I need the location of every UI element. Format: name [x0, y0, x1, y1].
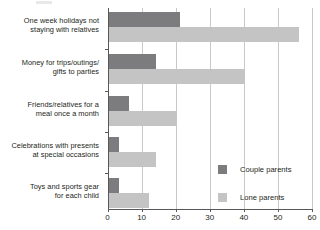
bar-2-couple-parents	[109, 96, 129, 111]
legend-item-lone-parents: Lone parents	[218, 191, 284, 204]
category-label-4-line1: Toys and sports gear	[30, 182, 99, 191]
x-tick-20	[176, 209, 177, 212]
y-tick-3	[105, 132, 108, 133]
bar-3-lone-parents	[109, 152, 157, 167]
chart-legend: Couple parents Lone parents	[218, 163, 314, 205]
legend-label-lone-parents: Lone parents	[240, 193, 284, 202]
top-artifact	[36, 1, 52, 4]
bar-0-lone-parents	[109, 27, 300, 42]
category-label-2: Friends/relatives for a meal once a mont…	[0, 100, 99, 119]
category-label-1-line1: Money for trips/outings/	[22, 58, 99, 67]
bar-2-lone-parents	[109, 111, 177, 126]
category-label-0-line2: staying with relatives	[30, 25, 99, 34]
y-tick-1	[105, 49, 108, 50]
x-axis-tick-labels: 0102030405060	[108, 213, 320, 225]
x-tick-10	[142, 209, 143, 212]
legend-label-couple-parents: Couple parents	[240, 165, 292, 174]
x-tick-label-60: 60	[308, 213, 317, 223]
x-tick-0	[108, 209, 109, 212]
category-label-3-line1: Celebrations with presents	[11, 141, 99, 150]
x-tick-30	[210, 209, 211, 212]
x-tick-50	[278, 209, 279, 212]
category-label-0: One week holidays not staying with relat…	[0, 16, 99, 35]
x-tick-label-30: 30	[205, 213, 214, 223]
legend-item-couple-parents: Couple parents	[218, 163, 292, 176]
bar-chart: One week holidays not staying with relat…	[0, 0, 319, 230]
legend-swatch-couple-parents	[218, 165, 227, 174]
category-label-3: Celebrations with presents at special oc…	[0, 141, 99, 160]
x-tick-40	[244, 209, 245, 212]
bar-1-lone-parents	[109, 69, 245, 84]
y-tick-2	[105, 91, 108, 92]
bar-0-couple-parents	[109, 12, 181, 27]
category-label-3-line2: at special occasions	[32, 150, 99, 159]
category-label-2-line2: meal once a month	[36, 109, 99, 118]
legend-swatch-lone-parents	[218, 193, 227, 202]
x-tick-label-10: 10	[137, 213, 146, 223]
x-tick-label-0: 0	[105, 213, 109, 223]
category-label-4-line2: for each child	[55, 191, 99, 200]
bar-3-couple-parents	[109, 137, 119, 152]
bar-4-lone-parents	[109, 193, 150, 208]
x-tick-label-20: 20	[171, 213, 180, 223]
category-label-0-line1: One week holidays not	[24, 16, 99, 25]
y-tick-4	[105, 173, 108, 174]
x-tick-label-40: 40	[239, 213, 248, 223]
category-label-2-line1: Friends/relatives for a	[27, 100, 99, 109]
bar-4-couple-parents	[109, 178, 119, 193]
x-tick-label-50: 50	[273, 213, 282, 223]
category-label-1-line2: gifts to parties	[53, 67, 99, 76]
category-label-4: Toys and sports gear for each child	[0, 182, 99, 201]
category-axis-labels: One week holidays not staying with relat…	[0, 8, 103, 209]
bar-1-couple-parents	[109, 54, 157, 69]
category-label-1: Money for trips/outings/ gifts to partie…	[0, 58, 99, 77]
x-tick-60	[312, 209, 313, 212]
